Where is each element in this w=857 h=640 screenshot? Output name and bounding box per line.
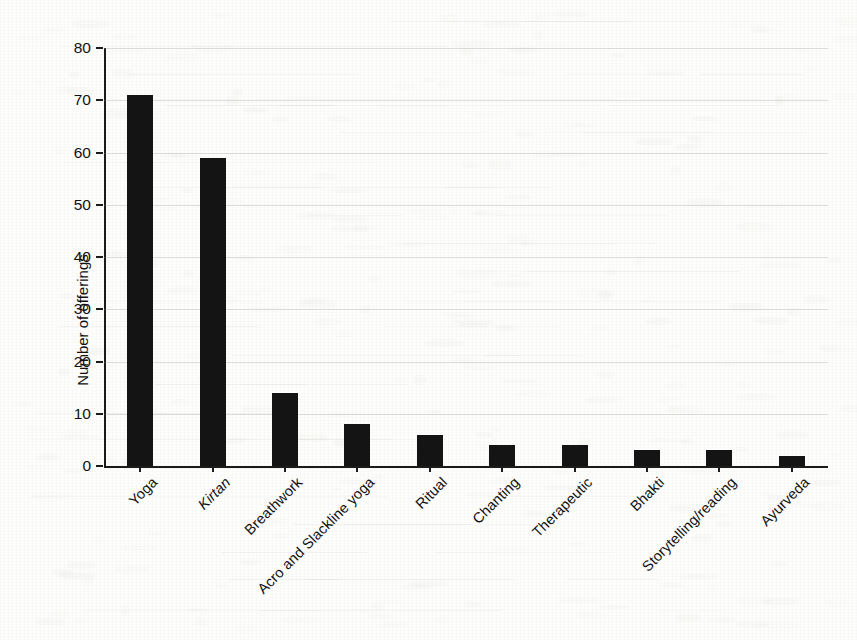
x-tick-mark (429, 466, 431, 472)
bar (706, 450, 732, 466)
bar (562, 445, 588, 466)
gridline (104, 100, 828, 101)
y-tick-label: 50 (74, 196, 91, 214)
x-tick-mark (791, 466, 793, 472)
bar-chart: Number of offerings 01020304050607080 Yo… (0, 0, 857, 640)
x-tick-label: Chanting (470, 474, 523, 527)
x-tick-label: Yoga (126, 474, 161, 509)
bar (634, 450, 660, 466)
gridline (104, 153, 828, 154)
x-tick-label: Ayurveda (757, 474, 812, 529)
y-tick-mark (96, 152, 103, 154)
x-tick-mark (718, 466, 720, 472)
bar (779, 456, 805, 466)
y-tick-label: 30 (74, 300, 91, 318)
y-tick-mark (96, 204, 103, 206)
bar (127, 95, 153, 466)
x-tick-mark (284, 466, 286, 472)
bar (489, 445, 515, 466)
y-tick-label: 0 (82, 457, 91, 475)
x-tick-label: Acro and Slackline yoga (255, 474, 378, 597)
y-tick-label: 20 (74, 353, 91, 371)
plot-area: 01020304050607080 (104, 48, 828, 466)
x-tick-mark (356, 466, 358, 472)
y-tick-label: 80 (74, 39, 91, 57)
y-tick-mark (96, 256, 103, 258)
x-tick-mark (574, 466, 576, 472)
x-tick-mark (501, 466, 503, 472)
gridline (104, 48, 828, 49)
bar (200, 158, 226, 466)
y-tick-label: 60 (74, 144, 91, 162)
y-tick-label: 70 (74, 91, 91, 109)
x-tick-label: Breathwork (241, 474, 305, 538)
y-tick-mark (96, 47, 103, 49)
x-tick-label: Ritual (412, 474, 450, 512)
y-tick-label: 10 (74, 405, 91, 423)
x-tick-mark (646, 466, 648, 472)
bar (344, 424, 370, 466)
x-tick-label: Kirtan (194, 474, 233, 513)
y-tick-mark (96, 413, 103, 415)
x-tick-label: Bhakti (627, 474, 667, 514)
x-tick-mark (212, 466, 214, 472)
x-tick-mark (139, 466, 141, 472)
bar (272, 393, 298, 466)
x-tick-label: Therapeutic (529, 474, 595, 540)
y-tick-mark (96, 361, 103, 363)
y-tick-mark (96, 308, 103, 310)
bar (417, 435, 443, 466)
y-tick-mark (96, 465, 103, 467)
y-tick-label: 40 (74, 248, 91, 266)
y-tick-mark (96, 99, 103, 101)
